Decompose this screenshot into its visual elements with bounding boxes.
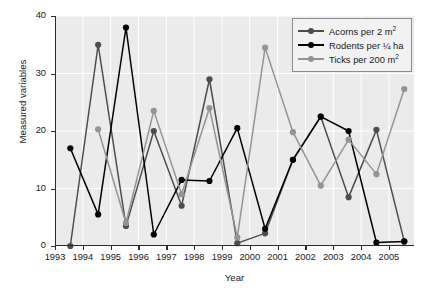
data-point [67,145,73,151]
data-point [179,203,185,209]
data-point [95,42,101,48]
x-tick-mark [361,246,362,250]
y-tick-label: 10 [20,183,46,193]
x-tick-mark [389,246,390,250]
x-tick-mark [305,246,306,250]
data-point [290,129,296,135]
x-tick-mark [250,246,251,250]
data-point [234,125,240,131]
figure-container: 010203040 199319941995199619971998199920… [0,0,424,294]
x-axis-label: Year [55,272,414,283]
data-point [179,177,185,183]
y-tick-mark [51,189,55,190]
legend-item: Acorns per 2 m2 [298,24,404,38]
x-tick-label: 2005 [372,252,406,262]
data-point [346,128,352,134]
x-tick-mark [83,246,84,250]
data-point [346,194,352,200]
data-point [262,226,268,232]
y-tick-mark [51,16,55,17]
data-point [151,231,157,237]
data-point [373,171,379,177]
data-point [234,234,240,240]
legend-item: Ticks per 200 m2 [298,52,404,66]
data-point [373,127,379,133]
x-tick-mark [222,246,223,250]
data-point [262,45,268,51]
y-tick-mark [51,131,55,132]
legend-marker-icon [298,40,324,50]
series-line [98,48,404,238]
x-tick-mark [333,246,334,250]
y-tick-label: 0 [20,240,46,250]
data-point [373,239,379,245]
data-point [95,211,101,217]
data-point [401,86,407,92]
data-point [123,24,129,30]
data-point [95,126,101,132]
legend-item: Rodents per ¼ ha [298,38,404,52]
x-tick-mark [278,246,279,250]
x-tick-mark [111,246,112,250]
y-axis-label: Measured variables [17,42,28,162]
data-point [206,105,212,111]
legend-marker-icon [298,26,324,36]
x-tick-mark [194,246,195,250]
data-point [401,238,407,244]
legend-label: Ticks per 200 m2 [329,53,399,65]
legend-marker-icon [298,54,324,64]
x-tick-mark [166,246,167,250]
data-point [346,137,352,143]
data-point [206,178,212,184]
data-point [318,114,324,120]
data-point [123,220,129,226]
y-tick-mark [51,74,55,75]
data-point [206,76,212,82]
legend-box: Acorns per 2 m2Rodents per ¼ haTicks per… [292,18,412,72]
legend-label: Rodents per ¼ ha [329,40,404,51]
x-tick-mark [55,246,56,250]
data-point [179,191,185,197]
series-0 [67,42,407,249]
data-point [151,128,157,134]
legend-label: Acorns per 2 m2 [329,25,396,37]
data-point [151,108,157,114]
x-tick-mark [138,246,139,250]
data-point [67,243,73,249]
data-point [234,240,240,246]
y-tick-label: 40 [20,10,46,20]
data-point [290,157,296,163]
data-point [318,183,324,189]
